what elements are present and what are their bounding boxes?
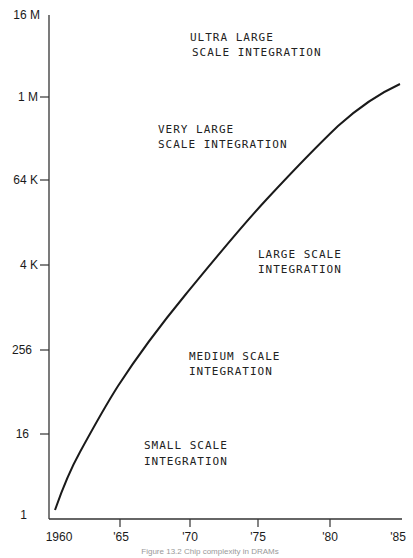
svg-text:INTEGRATION: INTEGRATION — [144, 455, 228, 468]
figure-caption: Figure 13.2 Chip complexity in DRAMs — [141, 547, 278, 556]
x-tick-65: '65 — [113, 530, 129, 544]
svg-text:VERY LARGE: VERY LARGE — [158, 123, 234, 136]
x-tick-85: '85 — [390, 530, 406, 544]
svg-text:SCALE INTEGRATION: SCALE INTEGRATION — [158, 138, 288, 151]
svg-text:INTEGRATION: INTEGRATION — [189, 365, 273, 378]
x-tick-labels: 1960 '65 '70 '75 '80 '85 — [46, 530, 406, 544]
region-label-msi: MEDIUM SCALE INTEGRATION — [189, 350, 280, 378]
x-tick-1960: 1960 — [46, 530, 73, 544]
svg-text:INTEGRATION: INTEGRATION — [258, 263, 342, 276]
region-label-ulsi: ULTRA LARGE SCALE INTEGRATION — [190, 31, 322, 59]
svg-text:SMALL SCALE: SMALL SCALE — [144, 439, 228, 452]
x-tick-70: '70 — [182, 530, 198, 544]
y-tick-16m: 16 M — [13, 8, 40, 22]
y-tick-4k: 4 K — [20, 258, 38, 272]
svg-text:ULTRA LARGE: ULTRA LARGE — [190, 31, 274, 44]
y-tick-16: 16 — [16, 427, 30, 441]
region-label-ssi: SMALL SCALE INTEGRATION — [144, 439, 228, 468]
integration-scale-chart: 16 M 1 M 64 K 4 K 256 16 1 1960 '65 '70 … — [0, 0, 413, 558]
svg-text:MEDIUM SCALE: MEDIUM SCALE — [189, 350, 280, 363]
x-ticks — [120, 519, 330, 527]
y-tick-labels: 16 M 1 M 64 K 4 K 256 16 1 — [12, 8, 40, 522]
region-label-lsi: LARGE SCALE INTEGRATION — [258, 248, 342, 276]
svg-text:LARGE SCALE: LARGE SCALE — [258, 248, 342, 261]
y-tick-256: 256 — [12, 343, 32, 357]
x-tick-80: '80 — [322, 530, 338, 544]
svg-text:SCALE INTEGRATION: SCALE INTEGRATION — [192, 46, 322, 59]
y-tick-1: 1 — [20, 508, 27, 522]
x-tick-75: '75 — [250, 530, 266, 544]
y-tick-64k: 64 K — [13, 173, 38, 187]
y-ticks — [40, 97, 49, 434]
region-label-vlsi: VERY LARGE SCALE INTEGRATION — [158, 123, 288, 151]
y-tick-1m: 1 M — [18, 90, 38, 104]
